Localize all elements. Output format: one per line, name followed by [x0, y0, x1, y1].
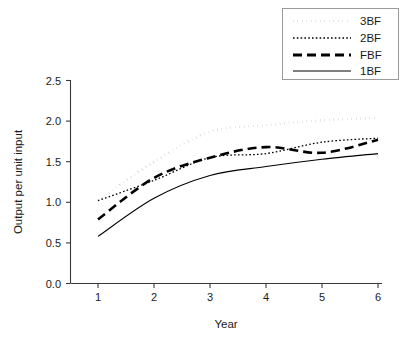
x-tick-label-1: 1 [95, 291, 101, 303]
legend-label-2bf: 2BF [360, 32, 381, 44]
legend-label-fbf: FBF [360, 49, 382, 61]
y-tick-label-2_0: 2.0 [46, 115, 61, 127]
x-axis-title: Year [214, 318, 237, 330]
y-tick-label-1_0: 1.0 [46, 196, 61, 208]
series-group [98, 118, 378, 237]
legend-box [283, 9, 399, 80]
axis-group [71, 80, 383, 284]
legend-label-1bf: 1BF [360, 65, 381, 77]
line-chart: 2.5 2.0 1.5 1.0 0.5 0.0 1 2 3 4 5 6 Year [0, 0, 403, 342]
x-tick-marks [98, 284, 378, 289]
series-line-2bf [98, 138, 378, 201]
x-tick-label-4: 4 [263, 291, 269, 303]
x-tick-label-5: 5 [319, 291, 325, 303]
legend: 3BF 2BF FBF 1BF [283, 9, 399, 80]
y-tick-marks [66, 81, 71, 284]
chart-canvas: 2.5 2.0 1.5 1.0 0.5 0.0 1 2 3 4 5 6 Year [0, 0, 403, 342]
x-tick-label-3: 3 [207, 291, 213, 303]
y-tick-label-1_5: 1.5 [46, 156, 61, 168]
y-tick-labels: 2.5 2.0 1.5 1.0 0.5 0.0 [46, 75, 61, 290]
series-line-3bf [98, 118, 378, 201]
y-tick-label-0_5: 0.5 [46, 237, 61, 249]
y-tick-label-2_5: 2.5 [46, 75, 61, 87]
x-tick-label-2: 2 [151, 291, 157, 303]
x-tick-labels: 1 2 3 4 5 6 [95, 291, 381, 303]
y-tick-label-0_0: 0.0 [46, 278, 61, 290]
legend-label-3bf: 3BF [360, 15, 381, 27]
x-tick-label-6: 6 [375, 291, 381, 303]
y-axis-title: Output per unit input [12, 129, 24, 234]
series-line-1bf [98, 154, 378, 237]
